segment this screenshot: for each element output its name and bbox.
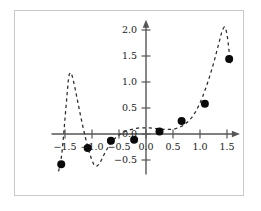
x-tick-label: 1.0 (192, 141, 207, 152)
x-tick-label: −1.5 (53, 141, 76, 152)
x-tick-label: −0.5 (107, 141, 130, 152)
y-tick-label: 1.0 (122, 76, 137, 87)
x-tick-label: 0.5 (165, 141, 180, 152)
data-point-marker (225, 55, 233, 63)
y-tick-label: 2.0 (122, 24, 137, 35)
x-tick-label: 1.5 (219, 141, 234, 152)
figure-root: −1.5−1.0−0.50.00.51.01.5−0.50.00.51.01.5… (0, 0, 261, 211)
y-tick-label: 0.5 (122, 102, 137, 113)
x-axis-arrow-icon (232, 131, 240, 138)
y-tick-label: −0.5 (114, 154, 137, 165)
tick-labels-layer: −1.5−1.0−0.50.00.51.01.5−0.50.00.51.01.5… (53, 24, 234, 165)
y-axis-arrow-icon (143, 20, 150, 28)
scatter-plot-chart: −1.5−1.0−0.50.00.51.01.5−0.50.00.51.01.5… (15, 11, 243, 195)
plot-frame: −1.5−1.0−0.50.00.51.01.5−0.50.00.51.01.5… (14, 10, 244, 196)
data-point-marker (57, 160, 65, 168)
x-tick-label: 0.0 (138, 141, 153, 152)
y-tick-label: 0.0 (122, 128, 137, 139)
y-tick-label: 1.5 (122, 50, 137, 61)
data-point-marker (156, 127, 164, 135)
data-point-marker (178, 117, 186, 125)
data-point-marker (201, 100, 209, 108)
x-tick-label: −1.0 (80, 141, 103, 152)
